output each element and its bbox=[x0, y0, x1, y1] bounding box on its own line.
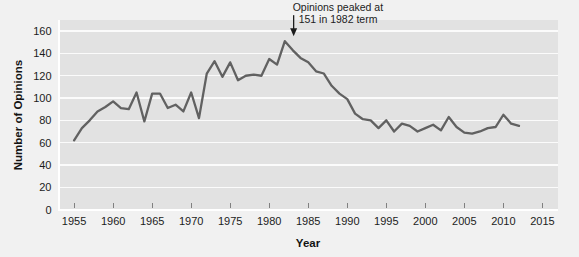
y-tick-label-0: 0 bbox=[45, 204, 51, 216]
x-tick-label-1970: 1970 bbox=[179, 215, 203, 227]
x-axis-title: Year bbox=[296, 237, 321, 249]
x-tick-label-2005: 2005 bbox=[452, 215, 476, 227]
plot-area-background bbox=[58, 20, 558, 209]
y-axis-title: Number of Opinions bbox=[12, 60, 24, 171]
y-tick-label-160: 160 bbox=[33, 25, 51, 37]
x-tick-label-1960: 1960 bbox=[101, 215, 125, 227]
y-tick-label-120: 120 bbox=[33, 70, 51, 82]
y-tick-label-140: 140 bbox=[33, 47, 51, 59]
annotation-line-2: 151 in 1982 term bbox=[299, 13, 378, 25]
y-tick-label-20: 20 bbox=[39, 181, 51, 193]
y-tick-label-80: 80 bbox=[39, 114, 51, 126]
chart-container: 020406080100120140160 195519601965197019… bbox=[0, 0, 579, 257]
x-tick-label-1955: 1955 bbox=[62, 215, 86, 227]
x-tick-label-2000: 2000 bbox=[413, 215, 437, 227]
x-tick-label-1985: 1985 bbox=[296, 215, 320, 227]
line-chart: 020406080100120140160 195519601965197019… bbox=[0, 0, 579, 257]
x-tick-label-2010: 2010 bbox=[491, 215, 515, 227]
x-tick-label-1975: 1975 bbox=[218, 215, 242, 227]
x-tick-label-1965: 1965 bbox=[140, 215, 164, 227]
y-tick-label-100: 100 bbox=[33, 92, 51, 104]
y-tick-label-60: 60 bbox=[39, 137, 51, 149]
x-tick-label-2015: 2015 bbox=[530, 215, 554, 227]
x-tick-label-1990: 1990 bbox=[335, 215, 359, 227]
x-tick-label-1980: 1980 bbox=[257, 215, 281, 227]
x-tick-label-1995: 1995 bbox=[374, 215, 398, 227]
y-tick-label-40: 40 bbox=[39, 159, 51, 171]
annotation-line-1: Opinions peaked at bbox=[293, 1, 384, 13]
